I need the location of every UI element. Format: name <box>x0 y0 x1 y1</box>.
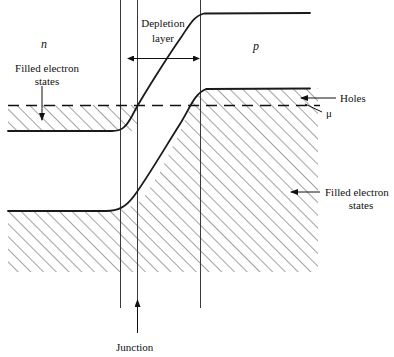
depletion-layer-label-line1: Depletion <box>141 17 185 29</box>
filled-electron-states-left-label-line2: states <box>35 75 59 87</box>
filled-electron-states-right-label-line1: Filled electron <box>325 186 389 198</box>
hatched-fill-group <box>0 80 340 280</box>
region-n-label: n <box>41 37 47 51</box>
chemical-potential-label: μ <box>326 107 332 119</box>
region-p-label: p <box>252 39 259 53</box>
filled-electron-states-right-label-line2: states <box>349 199 373 211</box>
band-diagram-figure: n p Depletion layer Filled electron stat… <box>0 0 394 357</box>
holes-label: Holes <box>340 92 366 104</box>
depletion-layer-label-line2: layer <box>152 32 174 44</box>
junction-label: Junction <box>116 341 154 353</box>
filled-electron-states-left-label-line1: Filled electron <box>15 62 79 74</box>
pn-junction-band-diagram: n p Depletion layer Filled electron stat… <box>0 0 394 357</box>
n-side-filled-band-hatch <box>0 95 160 145</box>
